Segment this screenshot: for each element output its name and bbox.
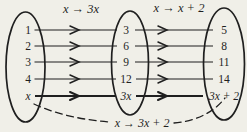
mapping-row: 4 12 14 [25,73,230,85]
domain-item-3: 4 [25,73,31,85]
range-item-1: 8 [221,40,227,52]
map2-label: x → x + 2 [153,1,205,15]
range-item-0: 5 [221,24,227,36]
mapping-row: 3 9 11 [25,56,230,68]
mapping-row: 1 3 5 [25,24,227,36]
function-composition-figure: x → 3x x → x + 2 1 3 5 2 6 8 3 9 11 4 12 [0,0,247,132]
composite-label: x → 3x + 2 [114,116,170,130]
mapping-row: 2 6 8 [25,40,227,52]
composite-dashed-curve-right [174,98,225,123]
composite-dashed-curve-left [34,104,110,122]
middle-item-3: 12 [120,73,132,85]
domain-item-0: 1 [25,24,31,36]
range-item-3: 14 [218,73,230,85]
middle-item-0: 3 [123,24,129,36]
domain-item-1: 2 [25,40,31,52]
range-item-4: 3x + 2 [208,90,239,102]
range-item-2: 11 [218,56,229,68]
domain-item-4: x [24,90,31,102]
middle-item-1: 6 [123,40,129,52]
middle-item-4: 3x [120,90,133,102]
domain-item-2: 3 [25,56,31,68]
map1-label: x → 3x [62,2,100,16]
middle-item-2: 9 [123,56,129,68]
composition-diagram: x → 3x x → x + 2 1 3 5 2 6 8 3 9 11 4 12 [0,0,247,132]
